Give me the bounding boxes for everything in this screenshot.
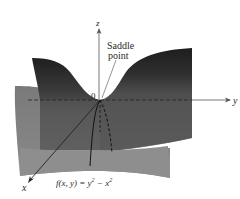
saddle-point-label-line2: point — [108, 50, 129, 61]
surface-lower-band — [20, 146, 170, 178]
x-axis-label: x — [21, 182, 27, 193]
surface-middle-body — [40, 100, 192, 152]
origin-label: 0 — [91, 91, 96, 101]
saddle-surface-diagram: z y x 0 Saddle point f(x, y) = y2 − x2 — [0, 0, 240, 199]
z-axis-label: z — [95, 18, 100, 28]
function-label: f(x, y) = y2 − x2 — [56, 177, 112, 188]
y-axis-label: y — [232, 95, 238, 106]
